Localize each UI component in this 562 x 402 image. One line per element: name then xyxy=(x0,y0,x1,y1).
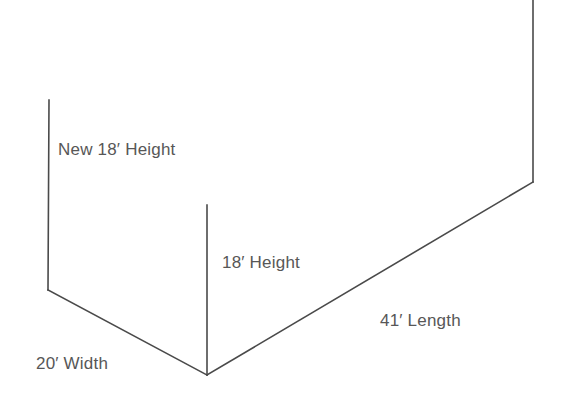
diagram-line-art xyxy=(0,0,562,402)
right-diagonal-edge xyxy=(207,182,533,375)
dimension-diagram: New 18′ Height 18′ Height 41′ Length 20′… xyxy=(0,0,562,402)
length-label: 41′ Length xyxy=(380,312,461,329)
height-label: 18′ Height xyxy=(222,254,300,271)
new-height-label: New 18′ Height xyxy=(58,141,176,158)
left-vertical-edge xyxy=(48,100,49,290)
width-label: 20′ Width xyxy=(36,355,108,372)
